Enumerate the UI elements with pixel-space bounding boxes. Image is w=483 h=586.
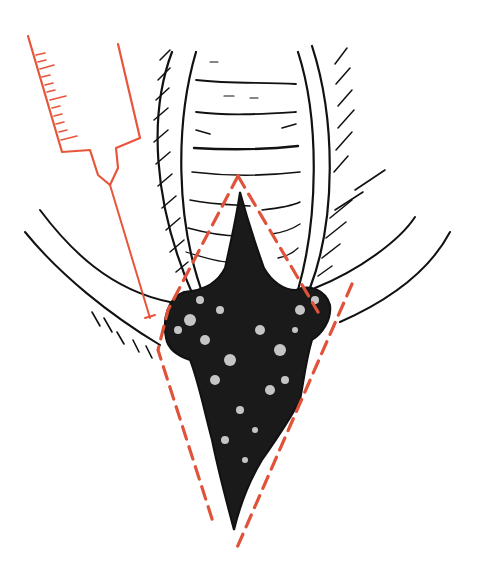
syringe-icon [28,36,155,318]
right-skin-folds [315,170,450,322]
illustration-canvas [0,0,483,586]
left-skin-folds [25,210,170,358]
medical-illustration [0,0,483,586]
left-labium [154,50,205,300]
right-labium [298,46,354,290]
